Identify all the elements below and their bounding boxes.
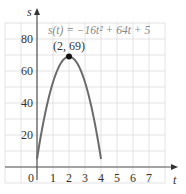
s-axis-arrow-icon [34, 8, 40, 15]
y-tick-label: 80 [21, 32, 33, 46]
y-tick-label: 20 [21, 128, 33, 142]
x-tick-label: 4 [98, 171, 104, 185]
equation-label: s(t) = −16t² + 64t + 5 [48, 24, 150, 37]
vertex-label: (2, 69) [53, 39, 85, 53]
s-axis-label: s [27, 5, 32, 19]
x-tick-label: 7 [146, 171, 152, 185]
x-tick-label: 5 [114, 171, 120, 185]
x-tick-label: 3 [82, 171, 88, 185]
y-tick-label: 40 [21, 96, 33, 110]
vertex-point [66, 54, 72, 60]
parabola-chart: s t 01234567 20406080 (2, 69) s(t) = −16… [0, 0, 186, 194]
y-tick-label: 60 [21, 64, 33, 78]
x-tick-label: 6 [130, 171, 136, 185]
t-axis-arrow-icon [171, 164, 178, 170]
x-tick-label: 1 [50, 171, 56, 185]
x-tick-label: 0 [28, 171, 34, 185]
x-tick-label: 2 [66, 171, 72, 185]
t-axis-label: t [173, 173, 177, 187]
